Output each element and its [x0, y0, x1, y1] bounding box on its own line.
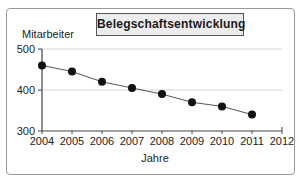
x-tick-label: 2012 [270, 135, 294, 147]
x-tick-label: 2009 [180, 135, 204, 147]
data-point-2010 [218, 102, 226, 110]
x-tick-label: 2005 [60, 135, 84, 147]
y-tick-label: 500 [17, 43, 35, 55]
x-tick-label: 2007 [120, 135, 144, 147]
x-axis-label: Jahre [42, 152, 268, 164]
data-point-2004 [38, 61, 46, 69]
data-point-2007 [128, 84, 136, 92]
data-point-2008 [158, 90, 166, 98]
chart-canvas: Mitarbeiter Belegschaftsentwicklung 3004… [0, 0, 304, 183]
data-point-2009 [188, 98, 196, 106]
y-tick-label: 400 [17, 84, 35, 96]
x-tick-label: 2004 [30, 135, 54, 147]
x-tick-label: 2010 [210, 135, 234, 147]
x-tick-label: 2006 [90, 135, 114, 147]
x-tick-label: 2008 [150, 135, 174, 147]
data-point-2006 [98, 78, 106, 86]
data-point-2011 [248, 111, 256, 119]
data-point-2005 [68, 68, 76, 76]
x-tick-label: 2011 [240, 135, 264, 147]
